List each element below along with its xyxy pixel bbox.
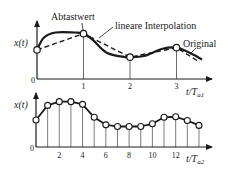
bottom-sample-marker: [33, 117, 39, 123]
top-x-label: t/Ta1: [186, 86, 204, 99]
bottom-origin-label: 0: [30, 144, 34, 153]
bottom-sample-marker: [126, 123, 132, 129]
bottom-tick-label: 12: [172, 151, 180, 160]
top-tick-labels: 123: [82, 82, 179, 91]
interp-leader-line: [99, 27, 113, 38]
bottom-sample-marker: [161, 114, 167, 120]
bottom-sample-marker: [149, 121, 155, 127]
bottom-stems: [48, 102, 199, 147]
bottom-sample-marker: [56, 99, 62, 105]
top-sample-marker: [80, 30, 86, 36]
bottom-tick-label: 6: [104, 151, 108, 160]
top-tick-label: 2: [128, 82, 132, 91]
bottom-tick-label: 4: [81, 151, 85, 160]
bottom-tick-label: 10: [148, 151, 156, 160]
bottom-x-label: t/Ta2: [186, 153, 205, 166]
bottom-sample-marker: [196, 122, 202, 128]
original-annotation: Original: [183, 38, 217, 49]
interp-annotation: lineare Interpolation: [115, 20, 196, 31]
top-y-label: x(t): [13, 37, 29, 49]
sampling-diagram: 0 123 x(t) t/Ta1 Abtastwert lineare Inte…: [0, 0, 233, 175]
top-tick-label: 3: [175, 82, 179, 91]
bottom-tick-label: 8: [127, 151, 131, 160]
top-tick-label: 1: [82, 82, 86, 91]
bottom-sample-markers: [33, 99, 202, 130]
bottom-y-label: x(t): [13, 99, 29, 111]
bottom-sample-marker: [138, 123, 144, 129]
bottom-sample-marker: [103, 122, 109, 128]
top-plot: 0 123 x(t) t/Ta1 Abtastwert lineare Inte…: [13, 11, 217, 99]
bottom-tick-labels: 24681012: [57, 151, 179, 160]
top-sample-marker: [173, 44, 179, 50]
top-sample-marker: [34, 47, 40, 53]
bottom-plot: 0 24681012 x(t) t/Ta2: [13, 93, 212, 166]
bottom-sample-marker: [91, 114, 97, 120]
bottom-sample-marker: [114, 123, 120, 129]
sample-annotation: Abtastwert: [51, 11, 95, 22]
bottom-sample-marker: [173, 114, 179, 120]
bottom-sample-marker: [68, 99, 74, 105]
bottom-sample-marker: [80, 101, 86, 107]
sample-leader-line: [82, 23, 83, 30]
bottom-x-label-sub: a2: [197, 158, 205, 166]
bottom-sample-marker: [184, 118, 190, 124]
top-sample-marker: [127, 54, 133, 60]
top-x-label-sub: a1: [197, 91, 204, 99]
bottom-tick-label: 2: [57, 151, 61, 160]
bottom-sample-marker: [45, 102, 51, 108]
top-origin-label: 0: [31, 76, 35, 85]
